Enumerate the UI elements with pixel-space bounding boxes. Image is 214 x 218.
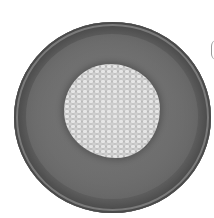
edge-object: [211, 40, 214, 60]
grain-pile: [64, 64, 160, 158]
photo-scene: [0, 0, 214, 218]
